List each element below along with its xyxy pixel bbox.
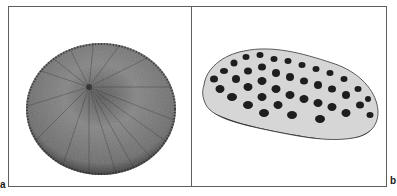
specimen-disc-image (9, 7, 191, 186)
panel-label-a: a (0, 180, 6, 190)
figure-frame (8, 6, 387, 187)
panel-label-b: b (390, 176, 396, 186)
specimen-spotted-image (192, 7, 386, 186)
panel-b (192, 7, 386, 186)
panel-a (9, 7, 192, 186)
